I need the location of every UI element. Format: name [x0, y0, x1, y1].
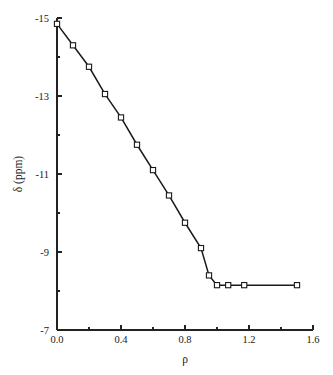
data-point-marker [198, 246, 203, 251]
axes [57, 18, 313, 330]
chart-figure: 0.00.40.81.21.6 -15-13-11-9-7 ρ δ (ppm) [0, 0, 333, 375]
data-series [54, 21, 299, 288]
series-markers [54, 21, 299, 288]
data-point-marker [118, 115, 123, 120]
data-point-marker [182, 220, 187, 225]
chart-canvas: 0.00.40.81.21.6 -15-13-11-9-7 ρ δ (ppm) [0, 0, 333, 375]
data-point-marker [242, 283, 247, 288]
x-tick-label: 1.2 [242, 334, 255, 345]
data-point-marker [226, 283, 231, 288]
data-point-marker [150, 168, 155, 173]
data-point-marker [206, 273, 211, 278]
data-point-marker [86, 64, 91, 69]
data-point-marker [294, 283, 299, 288]
data-point-marker [214, 283, 219, 288]
series-line [57, 24, 297, 285]
x-axis-tick-labels: 0.00.40.81.21.6 [50, 334, 319, 345]
data-point-marker [70, 43, 75, 48]
x-tick-label: 1.6 [306, 334, 319, 345]
x-tick-label: 0.4 [114, 334, 128, 345]
y-tick-label: -11 [35, 169, 49, 180]
data-point-marker [102, 91, 107, 96]
y-tick-label: -13 [35, 91, 49, 102]
data-point-marker [134, 142, 139, 147]
y-tick-label: -9 [40, 247, 49, 258]
y-axis-tick-labels: -15-13-11-9-7 [35, 13, 49, 336]
x-axis-title: ρ [182, 353, 188, 366]
x-tick-label: 0.8 [178, 334, 191, 345]
y-tick-label: -7 [40, 325, 49, 336]
data-point-marker [166, 193, 171, 198]
y-tick-label: -15 [35, 13, 49, 24]
data-point-marker [54, 21, 59, 26]
y-axis-title: δ (ppm) [12, 156, 25, 193]
x-tick-label: 0.0 [50, 334, 63, 345]
